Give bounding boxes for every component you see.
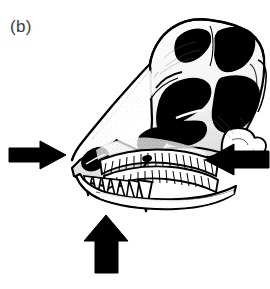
skull (72, 19, 266, 212)
figure-panel: (b) (0, 0, 270, 289)
arrow-left (9, 141, 66, 169)
skull-illustration (0, 0, 270, 289)
arrow-bottom (84, 215, 128, 273)
infratemporal-fenestra (212, 76, 259, 132)
